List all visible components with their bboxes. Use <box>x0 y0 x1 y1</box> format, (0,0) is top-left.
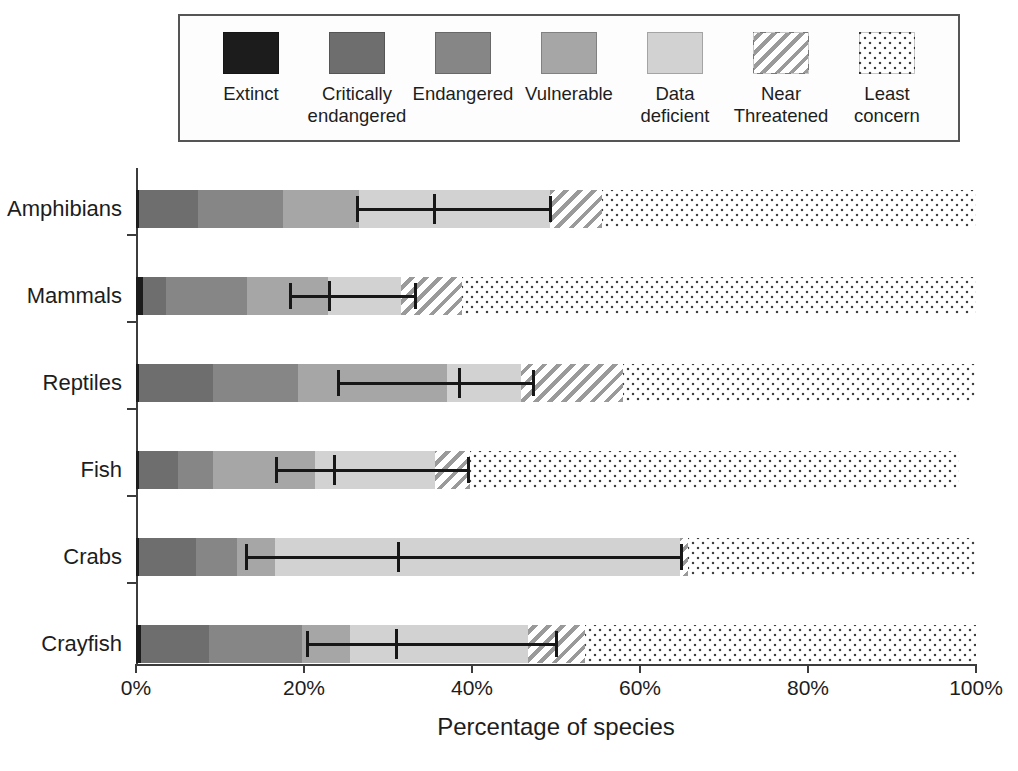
bar-segment <box>462 277 976 315</box>
extinct-swatch <box>223 32 279 74</box>
bar-segment <box>623 364 976 402</box>
error-bar-line <box>290 295 415 298</box>
legend-box: ExtinctCritically endangeredEndangeredVu… <box>178 14 960 142</box>
x-axis-tick-label: 100% <box>949 676 1003 700</box>
data-deficient-swatch <box>647 32 703 74</box>
error-bar-cap-high <box>467 457 470 483</box>
error-bar-line <box>276 469 468 472</box>
bar-segment <box>139 364 214 402</box>
legend-item: Critically endangered <box>307 32 407 126</box>
error-bar-cap-low <box>245 544 248 570</box>
bar-segment <box>283 190 359 228</box>
error-bar-cap-high <box>549 196 552 222</box>
legend-item-label: Vulnerable <box>525 83 613 105</box>
vulnerable-swatch <box>541 32 597 74</box>
bar-row <box>136 451 976 489</box>
stacked-bar <box>136 364 976 402</box>
y-axis-tick-label: Mammals <box>27 283 122 309</box>
bar-segment <box>178 451 213 489</box>
y-axis-tick <box>127 495 136 497</box>
bar-segment <box>550 190 602 228</box>
y-axis-tick <box>127 321 136 323</box>
x-axis-tick-label: 80% <box>787 676 829 700</box>
x-axis-tick <box>303 664 305 673</box>
legend-item: Data deficient <box>625 32 725 126</box>
bar-segment <box>470 451 959 489</box>
y-axis-tick-label: Crabs <box>63 544 122 570</box>
x-axis-tick <box>639 664 641 673</box>
legend-item: Least concern <box>837 32 937 126</box>
stacked-bar <box>136 277 976 315</box>
error-bar-cap-low <box>289 283 292 309</box>
bar-segment <box>196 538 236 576</box>
y-axis-line <box>136 168 138 664</box>
error-bar-cap-low <box>275 457 278 483</box>
x-axis-tick-label: 60% <box>619 676 661 700</box>
error-bar-mean-marker <box>328 281 331 311</box>
y-axis-tick-label: Reptiles <box>43 370 122 396</box>
error-bar-cap-high <box>532 370 535 396</box>
legend-item: Endangered <box>413 32 513 105</box>
error-bar-mean-marker <box>433 194 436 224</box>
stacked-bar <box>136 190 976 228</box>
bar-row <box>136 364 976 402</box>
error-bar-cap-high <box>555 631 558 657</box>
endangered-swatch <box>435 32 491 74</box>
chart-plot-area: AmphibiansMammalsReptilesFishCrabsCrayfi… <box>136 168 976 664</box>
y-axis-tick-label: Fish <box>80 457 122 483</box>
bar-segment <box>198 190 283 228</box>
bar-segment <box>141 625 209 663</box>
bar-segment <box>213 364 298 402</box>
legend-item-label: Least concern <box>854 83 920 126</box>
bar-segment <box>143 277 167 315</box>
x-axis-tick <box>471 664 473 673</box>
x-axis-title: Percentage of species <box>136 713 976 741</box>
x-axis-tick-label: 20% <box>283 676 325 700</box>
y-axis-tick-label: Crayfish <box>41 631 122 657</box>
legend-item-label: Critically endangered <box>308 83 407 126</box>
bar-row <box>136 625 976 663</box>
x-axis-tick <box>975 664 977 673</box>
error-bar-line <box>246 556 681 559</box>
legend-item: Near Threatened <box>731 32 831 126</box>
y-axis-tick <box>127 582 136 584</box>
bar-segment <box>139 538 197 576</box>
bar-row <box>136 538 976 576</box>
x-axis-tick-label: 0% <box>121 676 151 700</box>
bar-row <box>136 277 976 315</box>
legend-item: Extinct <box>201 32 301 105</box>
error-bar-cap-high <box>414 283 417 309</box>
least-concern-swatch <box>859 32 915 74</box>
legend-item: Vulnerable <box>519 32 619 105</box>
error-bar-cap-low <box>337 370 340 396</box>
bar-segment <box>521 364 623 402</box>
y-axis-tick-label: Amphibians <box>7 196 122 222</box>
bar-segment <box>209 625 302 663</box>
x-axis-tick-label: 40% <box>451 676 493 700</box>
x-axis-tick <box>807 664 809 673</box>
error-bar-mean-marker <box>333 455 336 485</box>
x-axis-tick <box>135 664 137 673</box>
bar-segment <box>688 538 976 576</box>
legend-item-label: Data deficient <box>641 83 710 126</box>
error-bar-mean-marker <box>458 368 461 398</box>
bar-segment <box>166 277 247 315</box>
bar-segment <box>136 277 143 315</box>
stacked-bar <box>136 451 976 489</box>
bar-segment <box>139 451 178 489</box>
y-axis-tick <box>127 234 136 236</box>
x-axis-line <box>136 664 976 666</box>
legend-item-label: Extinct <box>223 83 279 105</box>
legend-items: ExtinctCritically endangeredEndangeredVu… <box>180 16 958 140</box>
bar-segment <box>585 625 976 663</box>
error-bar-cap-high <box>680 544 683 570</box>
bar-row <box>136 190 976 228</box>
error-bar-cap-low <box>306 631 309 657</box>
error-bar-mean-marker <box>397 542 400 572</box>
legend-item-label: Near Threatened <box>734 83 829 126</box>
y-axis-tick <box>127 408 136 410</box>
bar-segment <box>602 190 976 228</box>
error-bar-cap-low <box>356 196 359 222</box>
error-bar-mean-marker <box>395 629 398 659</box>
legend-item-label: Endangered <box>413 83 514 105</box>
